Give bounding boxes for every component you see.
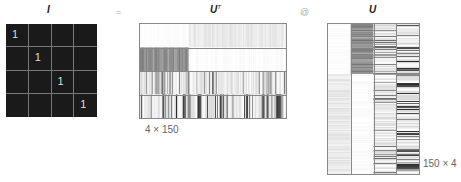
identity-matrix: 1111: [6, 24, 97, 117]
identity-cell: [52, 24, 75, 47]
identity-cell: [6, 47, 29, 70]
identity-cell: [52, 47, 75, 70]
equals-operator: =: [116, 7, 121, 17]
matmul-operator: @: [300, 7, 309, 17]
u-matrix: [327, 23, 420, 175]
identity-cell: [6, 71, 29, 94]
identity-cell: [74, 47, 97, 70]
identity-title: I: [47, 4, 50, 15]
ut-title: UT: [210, 4, 221, 15]
identity-cell: [6, 94, 29, 117]
identity-cell: [74, 24, 97, 47]
ut-dimension-label: 4 × 150: [145, 124, 179, 135]
identity-cell: [29, 94, 52, 117]
ut-heatmap: [140, 24, 286, 118]
identity-cell: [74, 71, 97, 94]
identity-cell: 1: [52, 71, 75, 94]
identity-cell: [52, 94, 75, 117]
u-dimension-label: 150 × 4: [423, 158, 457, 169]
identity-cell: 1: [6, 24, 29, 47]
identity-cell: [29, 71, 52, 94]
u-title: U: [369, 4, 376, 15]
identity-cell: 1: [29, 47, 52, 70]
u-heatmap: [328, 24, 419, 174]
identity-cell: 1: [74, 94, 97, 117]
ut-matrix: [139, 23, 287, 119]
identity-cell: [29, 24, 52, 47]
ut-title-sup: T: [217, 4, 221, 10]
